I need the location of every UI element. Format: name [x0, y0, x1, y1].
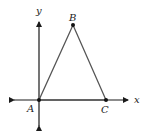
y-axis-label: y	[35, 5, 42, 16]
point-a	[37, 98, 41, 102]
coordinate-diagram: y x B A C	[0, 0, 147, 132]
label-a: A	[26, 103, 34, 114]
x-axis-label: x	[134, 94, 140, 105]
triangle-abc	[39, 25, 106, 100]
point-b	[71, 23, 75, 27]
point-c	[104, 98, 108, 102]
label-c: C	[101, 104, 109, 115]
label-b: B	[68, 12, 76, 23]
